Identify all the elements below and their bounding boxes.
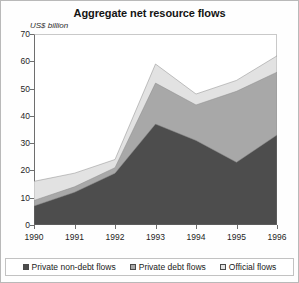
y-axis-tick-label: 50 [21,84,30,94]
y-axis-tick-mark [30,198,34,199]
stacked-area-series [34,34,277,225]
legend-swatch-icon [130,264,136,270]
legend-item[interactable]: Official flows [220,262,277,272]
x-axis-tick-label: 1993 [146,232,165,242]
x-axis-tick-mark [34,225,35,229]
x-axis-tick-mark [237,225,238,229]
legend-item[interactable]: Private debt flows [130,262,206,272]
x-axis-tick-label: 1996 [268,232,287,242]
legend-item-label: Private debt flows [139,262,206,272]
legend-item[interactable]: Private non-debt flows [23,262,116,272]
y-axis-label: US$ billion [30,21,68,30]
x-axis-tick-label: 1991 [65,232,84,242]
y-axis-tick-mark [30,116,34,117]
x-axis-tick-mark [156,225,157,229]
y-axis-tick-label: 60 [21,56,30,66]
legend-swatch-icon [23,264,29,270]
y-axis-tick-mark [30,143,34,144]
legend-swatch-icon [220,264,226,270]
y-axis-tick-label: 70 [21,29,30,39]
x-axis-tick-mark [115,225,116,229]
x-axis-tick-mark [196,225,197,229]
y-axis-tick-mark [30,61,34,62]
x-axis-tick-mark [277,225,278,229]
x-axis-tick-label: 1994 [187,232,206,242]
chart-legend: Private non-debt flowsPrivate debt flows… [5,258,294,276]
legend-item-label: Private non-debt flows [32,262,116,272]
legend-item-label: Official flows [229,262,277,272]
plot-area: 010203040506070 199019911992199319941995… [34,34,277,225]
y-axis-tick-label: 40 [21,111,30,121]
y-axis-tick-label: 10 [21,193,30,203]
y-axis-tick-mark [30,170,34,171]
x-axis-tick-label: 1995 [227,232,246,242]
y-axis-tick-label: 30 [21,138,30,148]
y-axis-tick-mark [30,34,34,35]
chart-title: Aggregate net resource flows [1,7,298,19]
x-axis-tick-label: 1990 [25,232,44,242]
x-axis-tick-mark [75,225,76,229]
y-axis-tick-label: 20 [21,165,30,175]
y-axis-tick-mark [30,89,34,90]
x-axis-tick-label: 1992 [106,232,125,242]
chart-figure: Aggregate net resource flows US$ billion… [0,0,299,283]
